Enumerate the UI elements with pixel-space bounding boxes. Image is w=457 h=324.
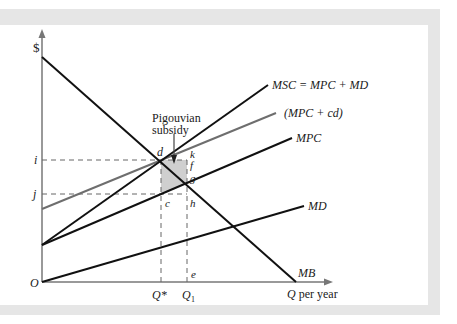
msc-label: MSC = MPC + MD xyxy=(271,78,369,92)
origin-label: O xyxy=(30,276,39,290)
point-g-label: g xyxy=(190,172,196,184)
pigouvian-subsidy-diagram: $ O i j Q* Q 1 Q per year MSC = MPC + MD… xyxy=(0,0,457,324)
mpc-cd-label: (MPC + cd) xyxy=(284,106,343,120)
y-axis-arrow-icon xyxy=(39,29,46,38)
msc-line xyxy=(42,85,268,245)
i-label: i xyxy=(34,153,37,167)
mpc-line xyxy=(42,138,292,245)
q1-subscript: 1 xyxy=(191,295,195,304)
x-axis-label: Q per year xyxy=(287,287,338,301)
x-axis-arrow-icon xyxy=(324,279,333,286)
point-c-label: c xyxy=(165,197,170,209)
mpc-label: MPC xyxy=(295,131,322,145)
point-d-label: d xyxy=(157,145,164,159)
md-label: MD xyxy=(307,199,327,213)
qstar-label: Q* xyxy=(152,288,167,302)
pigouvian-label-line2: subsidy xyxy=(152,123,189,137)
j-label: j xyxy=(31,187,37,201)
point-e-label: e xyxy=(191,268,196,280)
q1-label: Q xyxy=(182,288,191,302)
mb-line xyxy=(42,57,296,282)
dollar-label: $ xyxy=(33,40,40,55)
mb-label: MB xyxy=(297,266,316,280)
point-h-label: h xyxy=(190,197,196,209)
point-f-label: f xyxy=(190,159,195,171)
